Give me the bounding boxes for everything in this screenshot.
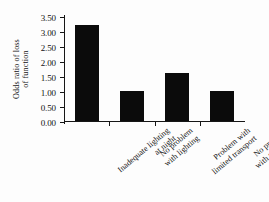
y-tick: 0.00 xyxy=(60,122,64,123)
y-axis-title: Odds ratio of loss of function xyxy=(8,14,34,124)
bar xyxy=(165,73,189,121)
y-axis-title-line-1: Odds ratio of loss xyxy=(12,39,21,99)
y-tick-label: 2.00 xyxy=(41,58,56,68)
y-tick-label: 0.50 xyxy=(41,103,56,113)
y-axis-title-text: Odds ratio of loss of function xyxy=(12,39,31,99)
y-tick: 3.50 xyxy=(60,17,64,18)
y-axis-title-line-2: of function xyxy=(21,39,30,99)
y-tick: 1.50 xyxy=(60,77,64,78)
plot-area: 0.000.501.001.502.002.503.003.50 xyxy=(64,17,245,122)
y-tick-label: 3.00 xyxy=(41,28,56,38)
y-tick: 2.50 xyxy=(60,47,64,48)
x-axis-category-labels: Inadequate lightingat nightNo problemwit… xyxy=(0,126,269,202)
bar xyxy=(75,25,99,121)
y-tick-label: 2.50 xyxy=(41,43,56,53)
y-tick-label: 1.50 xyxy=(41,73,56,83)
bar-chart-figure: Odds ratio of loss of function 0.000.501… xyxy=(0,0,269,202)
bar xyxy=(120,91,144,121)
bar xyxy=(210,91,234,121)
y-tick: 1.00 xyxy=(60,92,64,93)
y-tick-label: 3.50 xyxy=(41,13,56,23)
y-tick: 3.00 xyxy=(60,32,64,33)
y-tick-label: 1.00 xyxy=(41,88,56,98)
y-axis-line xyxy=(64,15,65,124)
y-tick: 2.00 xyxy=(60,62,64,63)
y-tick: 0.50 xyxy=(60,107,64,108)
